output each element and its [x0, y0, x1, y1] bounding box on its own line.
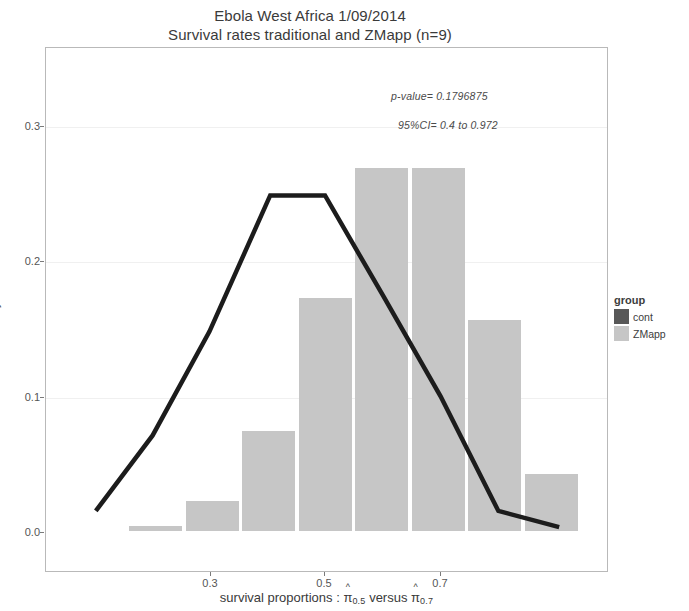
x-tick-label: 0.3	[202, 577, 217, 589]
x-tick-label: 0.7	[432, 577, 447, 589]
y-tick-mark	[40, 261, 44, 262]
pi-hat-low: ^ π	[343, 590, 352, 605]
y-axis-title: Density	[0, 302, 1, 342]
y-tick-label: 0.0	[6, 526, 40, 538]
legend-title: group	[614, 294, 686, 306]
y-tick-label: 0.3	[6, 120, 40, 132]
legend-label: ZMapp	[633, 328, 666, 340]
y-tick-mark	[40, 532, 44, 533]
x-tick-mark	[440, 572, 441, 576]
legend-item[interactable]: cont	[614, 309, 686, 324]
chart-title-line-2: Survival rates traditional and ZMapp (n=…	[0, 25, 620, 44]
pi-symbol-high: π	[411, 590, 420, 605]
legend: group contZMapp	[614, 294, 686, 343]
x-axis-title: survival proportions : ^ π0.5 versus ^ π…	[45, 590, 608, 606]
pi-hat-high: ^ π	[411, 590, 420, 605]
legend-swatch-zmapp	[614, 326, 629, 341]
confidence-interval-annotation: 95%CI= 0.4 to 0.972	[398, 119, 498, 131]
legend-swatch-cont	[614, 309, 629, 324]
y-tick-label: 0.2	[6, 255, 40, 267]
x-tick-mark	[210, 572, 211, 576]
x-axis-title-prefix: survival proportions :	[220, 590, 340, 605]
legend-label: cont	[633, 311, 653, 323]
y-tick-mark	[40, 126, 44, 127]
pi-symbol-low: π	[343, 590, 352, 605]
y-axis: 0.00.10.20.3 Density	[0, 47, 40, 572]
hat-accent-low: ^	[343, 583, 352, 592]
hat-accent-high: ^	[411, 583, 420, 592]
chart-title-line-1: Ebola West Africa 1/09/2014	[0, 6, 620, 25]
y-tick-label: 0.1	[6, 391, 40, 403]
legend-item[interactable]: ZMapp	[614, 326, 686, 341]
x-tick-mark	[324, 572, 325, 576]
p-value-annotation: p-value= 0.1796875	[391, 90, 488, 102]
pi-subscript-high: 0.7	[420, 596, 433, 606]
chart-figure: Ebola West Africa 1/09/2014 Survival rat…	[0, 0, 689, 611]
pi-subscript-low: 0.5	[352, 596, 365, 606]
density-line-series	[46, 48, 607, 571]
chart-title: Ebola West Africa 1/09/2014 Survival rat…	[0, 6, 620, 44]
x-tick-label: 0.5	[316, 577, 331, 589]
plot-panel: p-value= 0.1796875 95%CI= 0.4 to 0.972	[45, 47, 608, 572]
x-axis-title-versus: versus	[369, 590, 407, 605]
y-tick-mark	[40, 397, 44, 398]
